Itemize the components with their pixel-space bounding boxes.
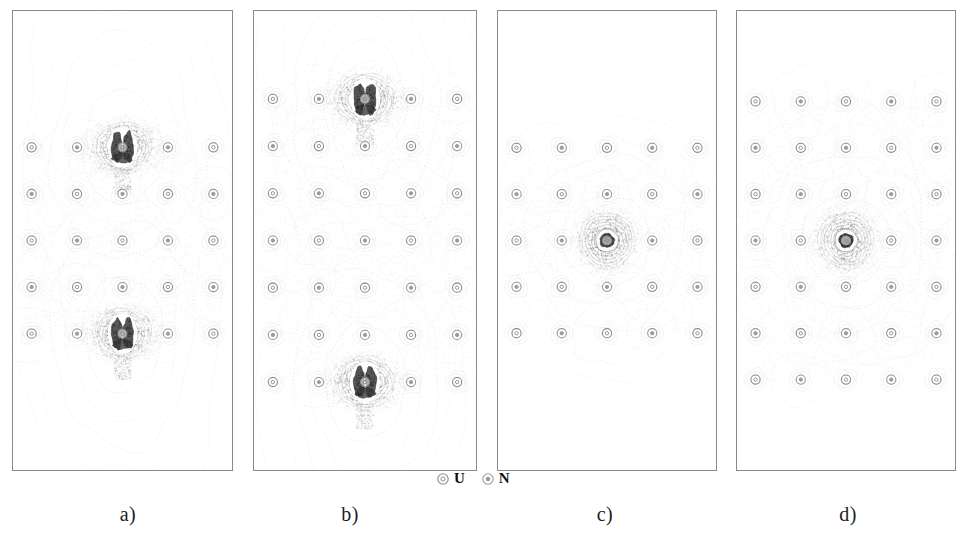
- panel-a: [12, 10, 233, 471]
- panel-c-density-map: [498, 11, 716, 470]
- panel-c: [497, 10, 717, 471]
- panel-b-density-map: [254, 11, 476, 470]
- panel-label-a: a): [98, 503, 158, 526]
- figure-root: U N a) b) c) d): [0, 0, 967, 541]
- legend-label-n: N: [499, 471, 510, 486]
- legend-entry-n: N: [481, 471, 510, 486]
- panel-b: [253, 10, 477, 471]
- nitrogen-marker-icon: [481, 472, 495, 486]
- legend: U N: [436, 471, 510, 486]
- panel-d: [736, 10, 956, 471]
- legend-label-u: U: [454, 471, 465, 486]
- panel-label-c: c): [575, 503, 635, 526]
- panel-label-b: b): [320, 503, 380, 526]
- panel-d-density-map: [737, 11, 955, 470]
- uranium-marker-icon: [436, 472, 450, 486]
- panel-a-density-map: [13, 11, 232, 470]
- legend-entry-u: U: [436, 471, 465, 486]
- panel-label-d: d): [818, 503, 878, 526]
